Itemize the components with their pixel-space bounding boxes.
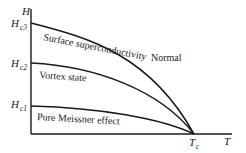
normal-label: Normal (151, 52, 182, 63)
hc1-sub: c1 (20, 104, 27, 113)
hc3-label: H c3 (10, 17, 27, 32)
vortex-state-label: Vortex state (39, 69, 88, 83)
hc3-base: H (10, 17, 20, 29)
tc-sub: c (196, 142, 200, 151)
tc-label: T c (189, 136, 200, 151)
surface-superconductivity-label: Surface superconductivity (43, 31, 148, 62)
x-axis-label: T (224, 135, 231, 147)
hc1-base: H (10, 98, 20, 110)
hc2-base: H (10, 57, 20, 69)
hc3-sub: c3 (20, 23, 27, 32)
tc-base: T (189, 136, 196, 148)
meissner-effect-label: Pure Meissner effect (37, 111, 120, 126)
hc1-label: H c1 (10, 98, 27, 113)
hc2-sub: c2 (20, 63, 27, 72)
phase-diagram: H H c3 H c2 H c1 T c T Surface supercond… (0, 0, 246, 153)
hc2-label: H c2 (10, 57, 27, 72)
y-axis-label: H (21, 5, 31, 17)
